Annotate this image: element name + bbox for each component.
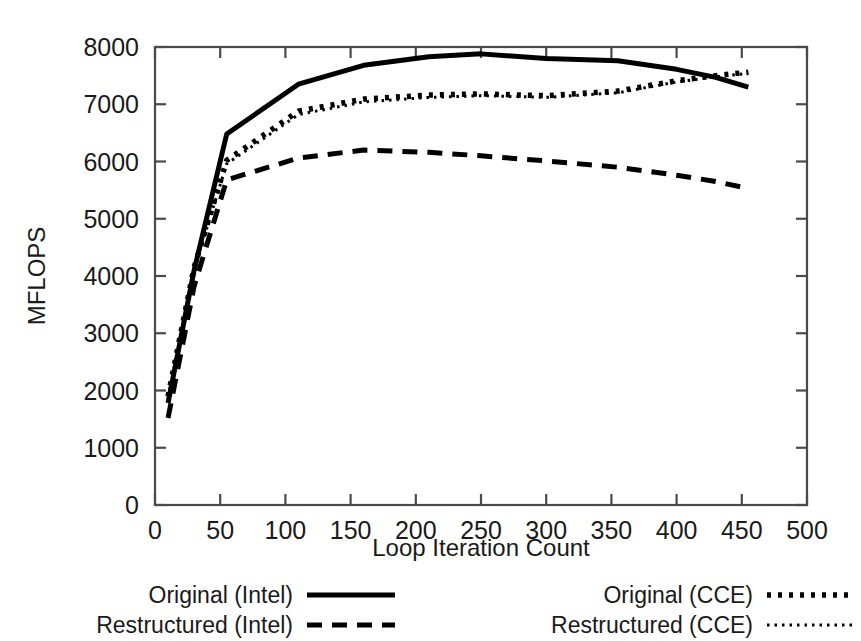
y-axis-tick-labels: 010002000300040005000600070008000 — [83, 33, 139, 519]
y-tick-label: 6000 — [83, 148, 139, 176]
series-line-original-cce — [168, 72, 748, 396]
series-line-restructured-intel — [168, 150, 748, 418]
x-tick-label: 100 — [265, 516, 307, 544]
data-series-group — [168, 54, 748, 418]
y-tick-label: 4000 — [83, 262, 139, 290]
y-tick-label: 1000 — [83, 434, 139, 462]
y-tick-label: 2000 — [83, 377, 139, 405]
legend-label: Restructured (CCE) — [551, 612, 753, 638]
mflops-line-chart: 050100150200250300350400450500 010002000… — [0, 0, 861, 641]
x-tick-label: 500 — [786, 516, 828, 544]
y-tick-label: 0 — [125, 491, 139, 519]
y-tick-label: 3000 — [83, 319, 139, 347]
x-tick-label: 400 — [656, 516, 698, 544]
legend-label: Original (CCE) — [603, 582, 753, 608]
y-tick-label: 8000 — [83, 33, 139, 61]
x-tick-label: 450 — [721, 516, 763, 544]
x-axis-title: Loop Iteration Count — [372, 534, 590, 561]
y-axis-title: MFLOPS — [23, 227, 50, 326]
x-tick-label: 50 — [206, 516, 234, 544]
y-tick-label: 5000 — [83, 205, 139, 233]
series-line-original-intel — [168, 54, 748, 403]
legend-label: Restructured (Intel) — [96, 612, 293, 638]
series-line-restructured-cce — [168, 73, 748, 397]
x-tick-label: 0 — [148, 516, 162, 544]
x-tick-label: 150 — [330, 516, 372, 544]
chart-legend: Original (Intel)Restructured (Intel)Orig… — [96, 582, 855, 638]
y-tick-label: 7000 — [83, 90, 139, 118]
x-tick-label: 350 — [591, 516, 633, 544]
legend-label: Original (Intel) — [149, 582, 293, 608]
chart-figure: 050100150200250300350400450500 010002000… — [0, 0, 861, 641]
